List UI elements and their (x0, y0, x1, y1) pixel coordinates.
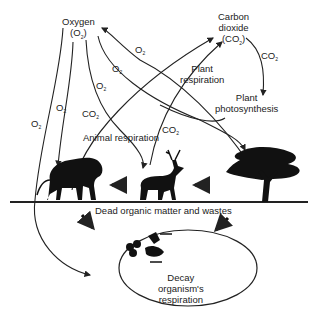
co2-edge-label: CO2 (82, 108, 99, 120)
decomposers-icon (126, 232, 172, 262)
deer-silhouette-icon (140, 150, 184, 200)
animal-respiration-label: Animal respiration (83, 132, 159, 143)
o2-edge-label: O2 (31, 118, 41, 130)
o2-edge-label: O2 (96, 80, 106, 92)
tree-silhouette-icon (226, 147, 300, 202)
plant-photosynthesis-label: Plant photosynthesis (215, 92, 278, 114)
plant-respiration-label: Plant respiration (180, 63, 224, 85)
carbon-dioxide-node-label: Carbon dioxide (CO2) (218, 11, 249, 49)
o2-edge-label: O2 (56, 102, 66, 114)
co2-edge-label: CO2 (261, 50, 278, 62)
lion-silhouette-icon (37, 158, 102, 200)
co2-edge-label: CO2 (162, 124, 179, 136)
carbon-oxygen-cycle-diagram: Oxygen (O2) Carbon dioxide (CO2) Plant p… (0, 0, 316, 313)
cycle-arrows (0, 0, 316, 313)
dead-organic-matter-label: Dead organic matter and wastes (95, 205, 232, 216)
o2-edge-label: O2 (135, 44, 145, 56)
oxygen-node-label: Oxygen (O2) (62, 16, 95, 43)
o2-edge-label: O2 (112, 63, 122, 75)
decay-organism-respiration-label: Decay organism's respiration (158, 272, 204, 305)
